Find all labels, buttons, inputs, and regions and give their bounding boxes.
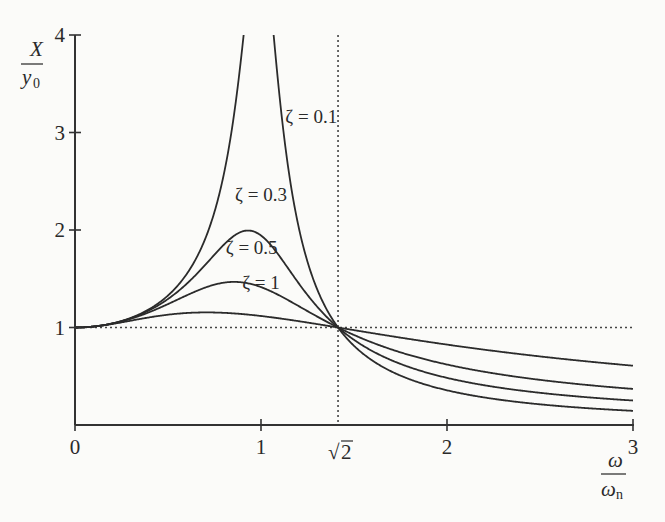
x-tick-label: 1	[256, 435, 267, 459]
x-tick-label: 3	[628, 435, 639, 459]
y-axis-title-subscript: 0	[33, 76, 40, 91]
y-axis-title: X y 0	[20, 37, 44, 91]
y-axis-title-numerator: X	[29, 37, 44, 61]
curve-label: ζ = 0.3	[235, 184, 287, 205]
axes	[75, 35, 634, 425]
ticks: 01√2231234	[55, 23, 639, 464]
plot-area: ζ = 0.1ζ = 0.3ζ = 0.5ζ = 1	[75, 16, 633, 426]
x-axis-title-subscript: n	[616, 487, 623, 502]
x-axis-title-denominator: ω	[601, 477, 616, 501]
y-tick-label: 3	[55, 121, 66, 145]
y-tick-label: 4	[55, 23, 66, 47]
curve-label: ζ = 1	[242, 272, 280, 293]
chart: ζ = 0.1ζ = 0.3ζ = 0.5ζ = 1 01√2231234 X …	[0, 0, 665, 522]
sqrt-symbol: √	[328, 440, 340, 464]
curve-label: ζ = 0.5	[226, 237, 278, 258]
x-tick-label-sqrt2: √2	[328, 440, 353, 464]
curve-zeta-0-5	[75, 282, 633, 389]
x-axis-title: ω ω n	[601, 448, 626, 502]
y-tick-label: 1	[55, 316, 66, 340]
sqrt-value: 2	[341, 440, 352, 464]
x-tick-label: 0	[70, 435, 81, 459]
x-tick-label: 2	[442, 435, 453, 459]
x-axis-title-numerator: ω	[608, 448, 623, 472]
y-tick-label: 2	[55, 218, 66, 242]
y-axis-title-denominator: y	[20, 65, 32, 89]
curve-label: ζ = 0.1	[285, 106, 337, 127]
curve-zeta-0-1	[75, 16, 633, 411]
